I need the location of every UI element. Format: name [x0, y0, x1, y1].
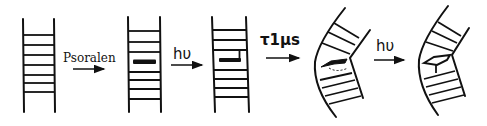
- crosslink-ladder: [419, 6, 469, 115]
- step-label-hv-2: hυ: [376, 37, 394, 55]
- psoralen-adduct: [321, 59, 347, 67]
- step-arrow-light-2: hυ: [374, 37, 404, 60]
- step-label-hv-1: hυ: [173, 45, 191, 63]
- step-arrow-relaxation: τ1μs: [260, 31, 300, 58]
- step-label-psoralen: Psoralen: [63, 51, 116, 65]
- bent-monoadduct-ladder: [315, 8, 370, 117]
- intercalated-ladder: [128, 17, 161, 112]
- step-arrow-psoralen: Psoralen: [63, 51, 116, 69]
- step-arrow-light-1: hυ: [171, 45, 202, 65]
- psoralen-crosslink: [424, 55, 450, 65]
- psoralen-bar: [219, 58, 241, 62]
- dna-ladder: [23, 19, 55, 112]
- psoralen-bar: [133, 60, 156, 65]
- monoadduct-ladder: [212, 17, 249, 112]
- step-label-tau: τ1μs: [260, 31, 300, 49]
- unbound-site: [329, 68, 348, 71]
